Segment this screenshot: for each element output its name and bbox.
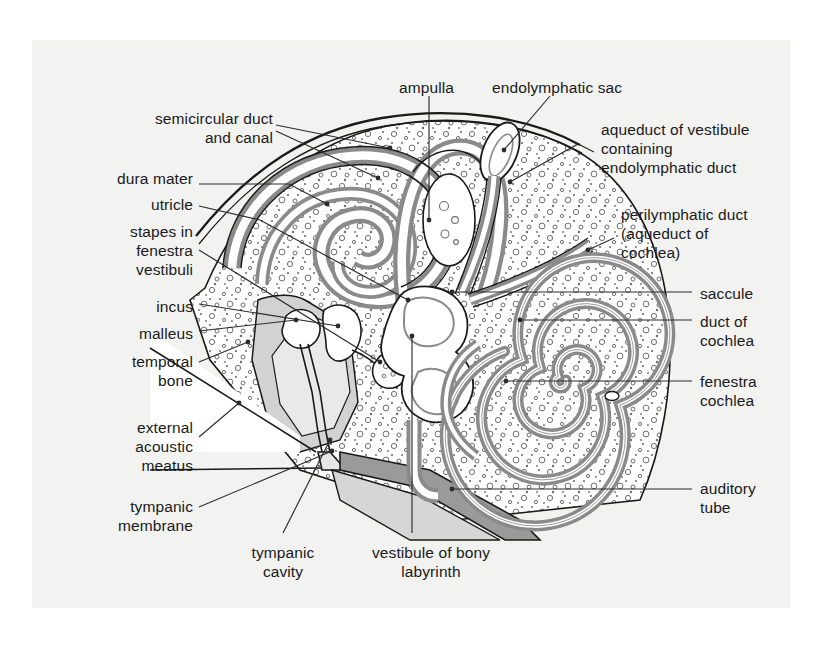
- label-incus: incus: [68, 297, 193, 316]
- label-semicircular-duct-and-canal: semicircular duct and canal: [78, 109, 273, 147]
- label-temporal-bone: temporal bone: [68, 352, 193, 390]
- label-utricle: utricle: [68, 195, 193, 214]
- label-tympanic-cavity: tympanic cavity: [222, 543, 344, 581]
- label-tympanic-membrane: tympanic membrane: [58, 497, 193, 535]
- label-auditory-tube: auditory tube: [700, 479, 820, 517]
- fenestra-cochlea-shape: [605, 392, 619, 401]
- label-stapes-in-fenestra-vestibuli: stapes in fenestra vestibuli: [68, 222, 193, 279]
- label-external-acoustic-meatus: external acoustic meatus: [68, 418, 193, 475]
- label-aqueduct-of-vestibule: aqueduct of vestibule containing endolym…: [601, 120, 816, 177]
- label-perilymphatic-duct: perilymphatic duct (aqueduct of cochlea): [621, 205, 816, 262]
- label-endolymphatic-sac: endolymphatic sac: [492, 78, 682, 97]
- label-vestibule-of-bony-labyrinth: vestibule of bony labyrinth: [336, 543, 526, 581]
- label-malleus: malleus: [68, 324, 193, 343]
- diagram-stage: semicircular duct and canal dura mater u…: [0, 0, 829, 647]
- label-dura-mater: dura mater: [68, 169, 193, 188]
- label-saccule: saccule: [700, 284, 820, 303]
- label-duct-of-cochlea: duct of cochlea: [700, 312, 820, 350]
- label-fenestra-cochlea: fenestra cochlea: [700, 372, 820, 410]
